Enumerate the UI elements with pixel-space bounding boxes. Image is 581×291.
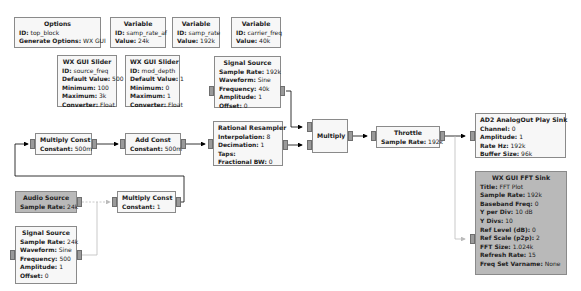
rational-resampler-block[interactable]: Rational Resampler Interpolation: 8 Deci… — [213, 121, 283, 166]
multiply-const-500m-block[interactable]: Multiply Const Constant: 500m — [35, 133, 92, 155]
wx-gui-slider-mod-depth-block[interactable]: WX GUI Slider ID: mod_depth Default Valu… — [125, 55, 180, 107]
ad2-analogout-play-sink-block[interactable]: AD2 AnalogOut Play Sink Channel: 0 Ampli… — [475, 113, 566, 158]
multiply-const-1-out-port[interactable] — [176, 197, 181, 207]
variable-samp-rate-af-block[interactable]: Variable ID: samp_rate_af Value: 24k — [110, 17, 166, 48]
multiply-const-1-in-port[interactable] — [112, 197, 117, 207]
signal-source-audio-in-port[interactable] — [10, 250, 15, 260]
fft-sink-in-port[interactable] — [470, 234, 475, 244]
rational-resampler-in-port[interactable] — [208, 139, 213, 149]
add-const-block[interactable]: Add Const Constant: 500m — [125, 133, 181, 155]
variable-samp-rate-block[interactable]: Variable ID: samp_rate Value: 192k — [172, 17, 220, 48]
flowgraph-canvas: Options ID: top_block Generate Options: … — [0, 0, 581, 291]
signal-source-carrier-block[interactable]: Signal Source Sample Rate: 192k Waveform… — [214, 56, 281, 108]
multiply-const-out-port[interactable] — [92, 139, 97, 149]
wx-gui-slider-source-freq-block[interactable]: WX GUI Slider ID: source_freq Default Va… — [57, 55, 117, 107]
signal-source-carrier-in-port[interactable] — [209, 86, 214, 96]
ad2-sink-in-port[interactable] — [470, 131, 475, 141]
variable-carrier-freq-block[interactable]: Variable ID: carrier_freq Value: 40k — [231, 17, 281, 48]
audio-source-out-port[interactable] — [77, 197, 82, 207]
multiply-in1-port[interactable] — [307, 140, 312, 150]
throttle-block[interactable]: Throttle Sample Rate: 192k — [376, 126, 440, 148]
rational-resampler-out-port[interactable] — [283, 140, 288, 150]
wx-gui-fft-sink-block[interactable]: WX GUI FFT Sink Title: FFT Plot Sample R… — [475, 171, 567, 275]
multiply-out-port[interactable] — [348, 131, 353, 141]
multiply-const-in-port[interactable] — [30, 139, 35, 149]
throttle-in-port[interactable] — [371, 131, 376, 141]
multiply-in0-port[interactable] — [307, 122, 312, 132]
multiply-block[interactable]: Multiply — [312, 119, 348, 153]
signal-source-audio-block[interactable]: Signal Source Sample Rate: 24k Waveform:… — [15, 226, 77, 284]
throttle-out-port[interactable] — [440, 131, 445, 141]
signal-source-audio-out-port[interactable] — [77, 250, 82, 260]
multiply-const-1-block[interactable]: Multiply Const Constant: 1 — [117, 191, 176, 213]
signal-source-carrier-out-port[interactable] — [280, 86, 285, 96]
add-const-in-port[interactable] — [120, 139, 125, 149]
options-block[interactable]: Options ID: top_block Generate Options: … — [14, 17, 101, 48]
audio-source-block[interactable]: Audio Source Sample Rate: 24k — [15, 191, 77, 213]
add-const-out-port[interactable] — [181, 139, 186, 149]
